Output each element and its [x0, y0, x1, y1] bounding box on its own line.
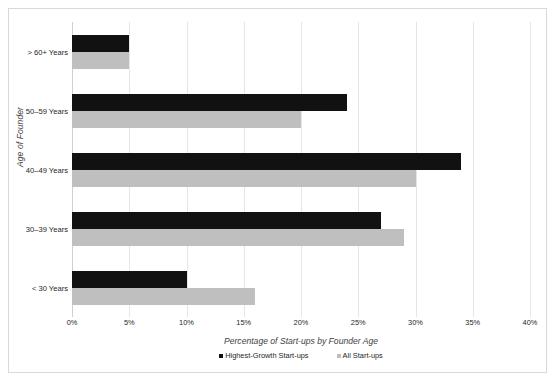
x-tick-label: 0%	[67, 318, 78, 327]
y-tick-label: 30–39 Years	[22, 224, 68, 233]
x-axis-tick-labels: 0%5%10%15%20%25%30%35%40%	[72, 318, 530, 332]
bar	[72, 111, 301, 128]
bar	[72, 35, 129, 52]
x-tick-label: 15%	[236, 318, 251, 327]
bar-group	[72, 35, 530, 69]
bar	[72, 229, 404, 246]
y-tick-label: 50–59 Years	[22, 106, 68, 115]
x-tick-label: 40%	[523, 318, 538, 327]
chart-legend: Highest-Growth Start-upsAll Start-ups	[72, 352, 530, 359]
legend-label: All Start-ups	[343, 352, 383, 359]
y-axis-tick-labels: < 30 Years30–39 Years40–49 Years50–59 Ye…	[24, 22, 70, 317]
y-tick-label: > 60+ Years	[22, 47, 68, 56]
bar-group	[72, 271, 530, 305]
y-tick-label: 40–49 Years	[22, 165, 68, 174]
x-tick-label: 5%	[124, 318, 135, 327]
x-axis-title: Percentage of Start-ups by Founder Age	[72, 336, 530, 346]
bar-group	[72, 153, 530, 187]
bar	[72, 94, 347, 111]
legend-swatch-icon	[219, 354, 223, 358]
bar	[72, 271, 187, 288]
bar	[72, 153, 461, 170]
bar	[72, 52, 129, 69]
x-tick-label: 25%	[351, 318, 366, 327]
legend-item: Highest-Growth Start-ups	[219, 352, 308, 359]
plot-area	[72, 22, 530, 317]
bar-group	[72, 212, 530, 246]
legend-swatch-icon	[337, 354, 341, 358]
x-tick-label: 35%	[465, 318, 480, 327]
legend-label: Highest-Growth Start-ups	[225, 352, 308, 359]
gridline-40%	[530, 22, 531, 317]
x-tick-label: 20%	[294, 318, 309, 327]
chart-figure: Age of Founder < 30 Years30–39 Years40–4…	[0, 0, 555, 381]
y-tick-label: < 30 Years	[22, 283, 68, 292]
legend-item: All Start-ups	[337, 352, 383, 359]
x-tick-label: 10%	[179, 318, 194, 327]
bar-group	[72, 94, 530, 128]
bar	[72, 212, 381, 229]
bar	[72, 288, 255, 305]
x-tick-label: 30%	[408, 318, 423, 327]
bar	[72, 170, 416, 187]
